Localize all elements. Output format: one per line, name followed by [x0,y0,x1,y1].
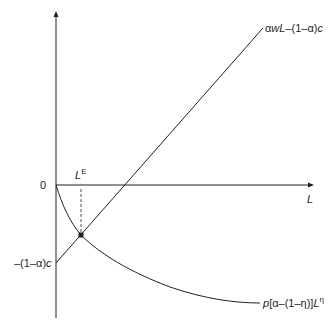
x-axis-label: L [307,193,313,205]
equilibrium-label: LE [75,167,86,181]
equilibrium-point [79,233,84,238]
linear-function-line [56,28,263,263]
power-function-curve [56,185,260,303]
origin-label: 0 [40,179,46,191]
linear-function-label: αwL–(1–α)c [265,22,324,34]
intercept-label: –(1–α)c [14,257,52,269]
power-function-label: p[α–(1–η)]Lη [262,295,324,309]
labor-supply-diagram: 0 LE L –(1–α)c αwL–(1–α)c p[α–(1–η)]Lη [0,0,335,324]
